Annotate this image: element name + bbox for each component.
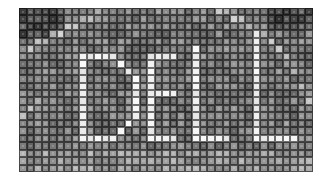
mosaic-tile — [132, 135, 140, 142]
mosaic-tile — [238, 68, 246, 75]
mosaic-tile — [57, 135, 65, 142]
mosaic-tile — [140, 150, 148, 157]
mosaic-tile — [238, 90, 246, 97]
mosaic-tile — [79, 165, 87, 172]
mosaic-tile — [200, 45, 208, 52]
mosaic-tile — [260, 105, 268, 112]
mosaic-tile — [207, 15, 215, 22]
mosaic-tile — [305, 112, 313, 119]
mosaic-tile — [132, 30, 140, 37]
mosaic-tile — [27, 53, 35, 60]
mosaic-tile — [177, 135, 185, 142]
mosaic-tile — [102, 120, 110, 127]
mosaic-tile — [238, 165, 246, 172]
mosaic-tile — [290, 127, 298, 134]
mosaic-tile — [275, 120, 283, 127]
mosaic-tile — [94, 8, 102, 15]
mosaic-tile — [305, 157, 313, 164]
mosaic-tile — [207, 45, 215, 52]
mosaic-tile — [19, 97, 27, 104]
mosaic-tile — [200, 120, 208, 127]
mosaic-tile — [94, 127, 102, 134]
mosaic-tile — [298, 90, 306, 97]
mosaic-tile — [42, 142, 50, 149]
mosaic-tile — [117, 83, 125, 90]
mosaic-tile — [117, 75, 125, 82]
mosaic-tile — [230, 83, 238, 90]
mosaic-tile — [238, 60, 246, 67]
mosaic-tile — [132, 60, 140, 67]
mosaic-tile — [64, 53, 72, 60]
mosaic-tile — [268, 165, 276, 172]
mosaic-tile — [109, 68, 117, 75]
mosaic-tile — [109, 8, 117, 15]
mosaic-tile — [290, 45, 298, 52]
mosaic-tile — [275, 135, 283, 142]
mosaic-tile — [238, 75, 246, 82]
mosaic-tile — [268, 157, 276, 164]
mosaic-tile — [253, 30, 261, 37]
mosaic-tile — [283, 83, 291, 90]
mosaic-tile — [140, 38, 148, 45]
mosaic-tile — [215, 142, 223, 149]
mosaic-tile — [230, 127, 238, 134]
mosaic-tile — [19, 165, 27, 172]
mosaic-tile — [162, 68, 170, 75]
mosaic-tile — [79, 150, 87, 157]
mosaic-tile — [64, 38, 72, 45]
mosaic-tile — [230, 23, 238, 30]
mosaic-tile — [223, 142, 231, 149]
mosaic-tile — [87, 30, 95, 37]
mosaic-tile — [19, 157, 27, 164]
mosaic-tile — [27, 135, 35, 142]
mosaic-tile — [79, 30, 87, 37]
mosaic-tile — [72, 120, 80, 127]
mosaic-tile — [185, 150, 193, 157]
mosaic-tile — [260, 45, 268, 52]
mosaic-tile — [230, 157, 238, 164]
mosaic-tile — [238, 150, 246, 157]
mosaic-tile — [298, 15, 306, 22]
mosaic-tile — [155, 75, 163, 82]
mosaic-tile — [64, 165, 72, 172]
mosaic-tile — [64, 23, 72, 30]
mosaic-tile — [290, 90, 298, 97]
mosaic-tile — [155, 112, 163, 119]
mosaic-tile — [177, 112, 185, 119]
mosaic-tile — [147, 150, 155, 157]
mosaic-tile — [162, 8, 170, 15]
mosaic-tile — [94, 38, 102, 45]
mosaic-tile — [207, 68, 215, 75]
mosaic-tile — [147, 38, 155, 45]
mosaic-tile — [140, 53, 148, 60]
mosaic-tile — [192, 8, 200, 15]
mosaic-tile — [162, 120, 170, 127]
mosaic-tile — [49, 68, 57, 75]
mosaic-tile — [192, 83, 200, 90]
mosaic-tile — [185, 135, 193, 142]
mosaic-tile — [57, 8, 65, 15]
mosaic-tile — [253, 8, 261, 15]
mosaic-tile — [147, 105, 155, 112]
mosaic-tile — [64, 90, 72, 97]
mosaic-tile — [170, 30, 178, 37]
mosaic-tile — [117, 120, 125, 127]
mosaic-tile — [72, 150, 80, 157]
mosaic-tile — [49, 165, 57, 172]
mosaic-tile — [102, 157, 110, 164]
mosaic-tile — [162, 157, 170, 164]
mosaic-tile — [177, 30, 185, 37]
mosaic-tile — [207, 90, 215, 97]
mosaic-tile — [102, 105, 110, 112]
mosaic-tile — [185, 38, 193, 45]
mosaic-tile — [275, 75, 283, 82]
mosaic-tile — [42, 15, 50, 22]
mosaic-tile — [298, 68, 306, 75]
mosaic-tile — [155, 38, 163, 45]
mosaic-tile — [268, 105, 276, 112]
mosaic-tile — [19, 23, 27, 30]
mosaic-tile — [245, 105, 253, 112]
mosaic-tile — [230, 53, 238, 60]
mosaic-tile — [34, 135, 42, 142]
mosaic-tile — [177, 157, 185, 164]
